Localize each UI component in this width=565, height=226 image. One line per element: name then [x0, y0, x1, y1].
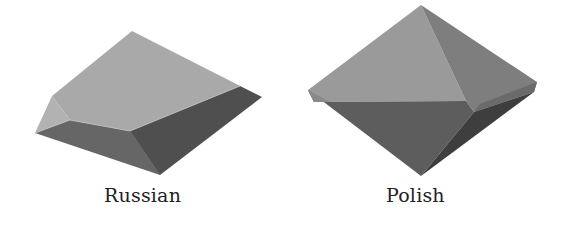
polish-lower-left-face [308, 90, 474, 176]
polish-shape [308, 5, 537, 176]
figure-canvas [0, 0, 565, 226]
russian-shape [35, 31, 262, 175]
polish-label: Polish [386, 184, 445, 206]
russian-label: Russian [104, 184, 181, 206]
